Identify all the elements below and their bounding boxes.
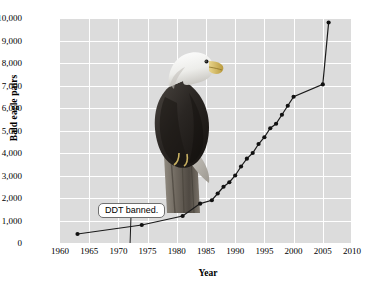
y-tick-label: 8,000	[0, 59, 22, 68]
gridline-vertical	[89, 18, 90, 243]
y-tick-label: 6,000	[0, 104, 22, 113]
y-tick-label: 5,000	[0, 127, 22, 136]
x-axis-title-text: Year	[199, 268, 218, 278]
y-tick-label: 9,000	[0, 37, 22, 46]
x-tick-label: 2010	[332, 246, 372, 256]
y-tick-label: 10,000	[0, 14, 22, 23]
gridline-vertical	[351, 18, 352, 243]
y-tick-label: 3,000	[0, 172, 22, 181]
gridline-vertical	[323, 18, 324, 243]
y-tick-label: 1,000	[0, 217, 22, 226]
y-tick-label: 0	[0, 239, 22, 248]
gridline-vertical	[264, 18, 265, 243]
x-axis-title: Year	[0, 268, 378, 278]
ddt-banned-callout: DDT banned.	[98, 203, 165, 218]
y-tick-label: 4,000	[0, 149, 22, 158]
y-tick-label: 7,000	[0, 82, 22, 91]
bald-eagle-photo	[139, 37, 231, 215]
gridline-vertical	[235, 18, 236, 243]
gridline-vertical	[294, 18, 295, 243]
y-tick-label: 2,000	[0, 194, 22, 203]
chart-figure: Bald eagle pairs	[0, 0, 378, 290]
